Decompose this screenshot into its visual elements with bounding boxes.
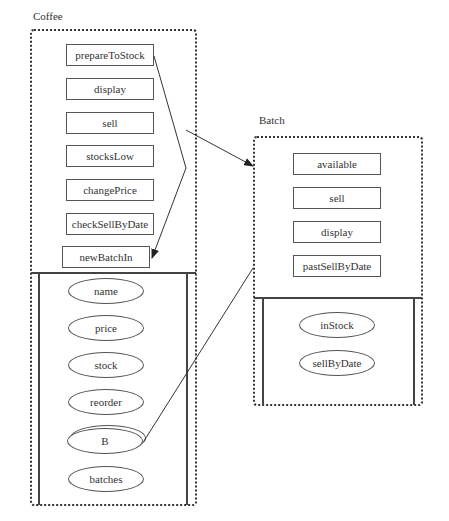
coffee-attr-name: name bbox=[68, 278, 144, 304]
coffee-method-sell[interactable]: sell bbox=[66, 112, 154, 134]
coffee-attr-batches: batches bbox=[68, 466, 144, 492]
coffee-title: Coffee bbox=[33, 10, 63, 22]
coffee-attr-reorder: reorder bbox=[68, 389, 144, 415]
coffee-method-stocks-low[interactable]: stocksLow bbox=[66, 145, 154, 167]
coffee-method-new-batch-in[interactable]: newBatchIn bbox=[62, 246, 150, 268]
coffee-method-display[interactable]: display bbox=[66, 78, 154, 100]
batch-method-past-sell-by-date[interactable]: pastSellByDate bbox=[293, 255, 381, 277]
batch-method-available[interactable]: available bbox=[293, 153, 381, 175]
coffee-attr-price: price bbox=[68, 315, 144, 341]
batch-method-display[interactable]: display bbox=[293, 221, 381, 243]
batch-method-sell[interactable]: sell bbox=[293, 187, 381, 209]
coffee-method-prepare-to-stock[interactable]: prepareToStock bbox=[66, 44, 154, 66]
batch-attr-in-stock: inStock bbox=[299, 312, 375, 338]
coffee-attr-stock: stock bbox=[68, 352, 144, 378]
batch-attr-sell-by-date: sellByDate bbox=[299, 350, 375, 376]
coffee-method-check-sell-by-date[interactable]: checkSellByDate bbox=[66, 213, 154, 235]
coffee-method-change-price[interactable]: changePrice bbox=[66, 179, 154, 201]
coffee-attr-b: B bbox=[67, 428, 143, 454]
batch-title: Batch bbox=[259, 114, 285, 126]
